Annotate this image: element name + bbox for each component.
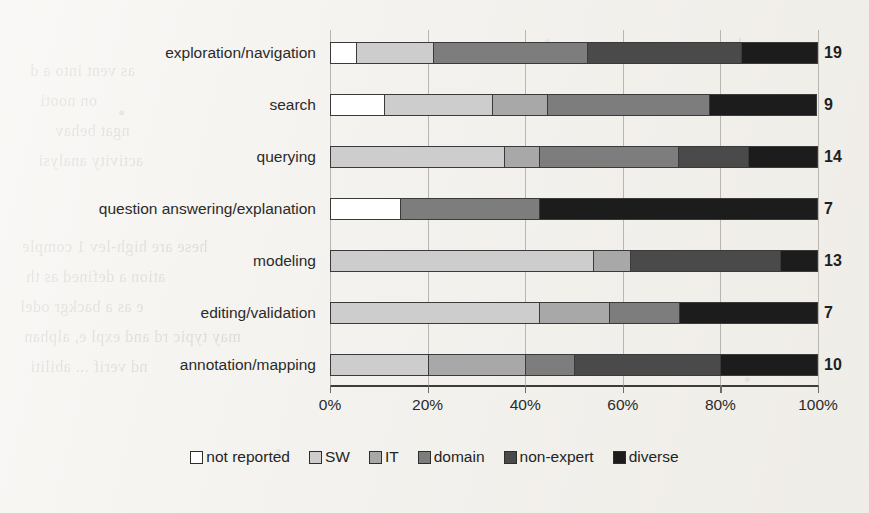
bar-segment-it: [504, 146, 539, 168]
legend-item-sw[interactable]: SW: [309, 448, 350, 466]
bar-row: [330, 302, 818, 324]
x-tick: [720, 385, 721, 393]
x-tick: [525, 385, 526, 393]
legend-label: not reported: [206, 448, 290, 466]
bar-segment-domain: [539, 146, 679, 168]
legend-item-not-reported[interactable]: not reported: [190, 448, 290, 466]
legend-swatch-icon: [190, 451, 203, 464]
bar-segment-not-reported: [330, 42, 356, 64]
bar-segment-domain: [433, 42, 587, 64]
bar-segment-diverse: [539, 198, 818, 220]
bar-segment-sw: [330, 302, 539, 324]
legend-label: non-expert: [520, 448, 594, 466]
bar-total-label: 14: [824, 146, 842, 168]
x-tick: [623, 385, 624, 393]
bar-segment-sw: [330, 250, 593, 272]
x-axis-ticks: [330, 385, 819, 393]
bar-segment-domain: [609, 302, 679, 324]
legend-item-diverse[interactable]: diverse: [613, 448, 679, 466]
bar-segment-non-expert: [587, 42, 741, 64]
bar-segment-diverse: [709, 94, 817, 116]
x-tick-label: 100%: [798, 396, 838, 414]
bar-total-label: 7: [824, 198, 833, 220]
category-label: annotation/mapping: [180, 354, 316, 376]
stacked-bar-chart: exploration/navigationsearchqueryingques…: [0, 0, 869, 513]
bar-row: [330, 42, 818, 64]
x-axis-tick-labels: 0%20%40%60%80%100%: [330, 396, 819, 420]
bar-segment-sw: [330, 146, 504, 168]
legend-swatch-icon: [504, 451, 517, 464]
x-tick-label: 80%: [705, 396, 736, 414]
bar-segment-non-expert: [630, 250, 780, 272]
bar-segment-domain: [400, 198, 540, 220]
category-label: modeling: [253, 250, 316, 272]
legend-label: diverse: [629, 448, 679, 466]
bar-total-label: 19: [824, 42, 842, 64]
category-label: querying: [257, 146, 316, 168]
bar-segment-diverse: [679, 302, 818, 324]
bar-segment-it: [492, 94, 546, 116]
bar-segment-diverse: [720, 354, 818, 376]
x-tick: [330, 385, 331, 393]
legend-label: SW: [325, 448, 350, 466]
bar-segment-sw: [384, 94, 492, 116]
bar-row: [330, 250, 818, 272]
bar-row: [330, 94, 818, 116]
plot-area: [330, 30, 818, 385]
bar-total-label: 13: [824, 250, 842, 272]
bar-segment-diverse: [741, 42, 818, 64]
bar-segment-domain: [547, 94, 710, 116]
legend-swatch-icon: [613, 451, 626, 464]
bar-segment-sw: [356, 42, 433, 64]
legend-swatch-icon: [369, 451, 382, 464]
bar-segment-non-expert: [678, 146, 748, 168]
bar-rows: [330, 30, 818, 385]
legend-item-it[interactable]: IT: [369, 448, 399, 466]
category-label: question answering/explanation: [99, 198, 316, 220]
bar-row: [330, 354, 818, 376]
category-axis-labels: exploration/navigationsearchqueryingques…: [0, 30, 330, 385]
legend-label: domain: [434, 448, 485, 466]
bar-segment-it: [593, 250, 631, 272]
legend-swatch-icon: [418, 451, 431, 464]
legend-item-non-expert[interactable]: non-expert: [504, 448, 594, 466]
bar-segment-diverse: [748, 146, 818, 168]
legend-item-domain[interactable]: domain: [418, 448, 485, 466]
x-tick: [818, 385, 819, 393]
category-label: editing/validation: [201, 302, 316, 324]
bar-segment-domain: [525, 354, 574, 376]
bar-segment-diverse: [780, 250, 818, 272]
x-tick-label: 40%: [510, 396, 541, 414]
bar-total-label: 10: [824, 354, 842, 376]
x-tick-label: 20%: [412, 396, 443, 414]
category-label: exploration/navigation: [165, 42, 316, 64]
bar-total-label: 9: [824, 94, 833, 116]
gridline-100: [818, 30, 819, 385]
bar-segment-non-expert: [574, 354, 720, 376]
bar-segment-sw: [330, 354, 428, 376]
x-tick-label: 0%: [319, 396, 341, 414]
legend-swatch-icon: [309, 451, 322, 464]
x-tick: [428, 385, 429, 393]
bar-row: [330, 146, 818, 168]
legend-label: IT: [385, 448, 399, 466]
bar-segment-it: [539, 302, 609, 324]
chart-legend: not reportedSWITdomainnon-expertdiverse: [0, 448, 869, 466]
bar-total-label: 7: [824, 302, 833, 324]
bar-segment-it: [428, 354, 526, 376]
bar-row: [330, 198, 818, 220]
bar-segment-not-reported: [330, 198, 400, 220]
category-label: search: [269, 94, 316, 116]
bar-total-labels: 19914713710: [824, 30, 869, 385]
x-tick-label: 60%: [607, 396, 638, 414]
bar-segment-not-reported: [330, 94, 384, 116]
